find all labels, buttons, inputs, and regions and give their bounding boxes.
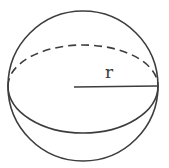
radius-label: r — [105, 62, 114, 82]
sphere-figure: r — [0, 0, 169, 168]
radius-line — [74, 86, 157, 87]
equator-front-arc — [8, 86, 158, 133]
equator-back-dashed-arc — [8, 45, 158, 86]
sphere-diagram: r — [0, 0, 169, 168]
